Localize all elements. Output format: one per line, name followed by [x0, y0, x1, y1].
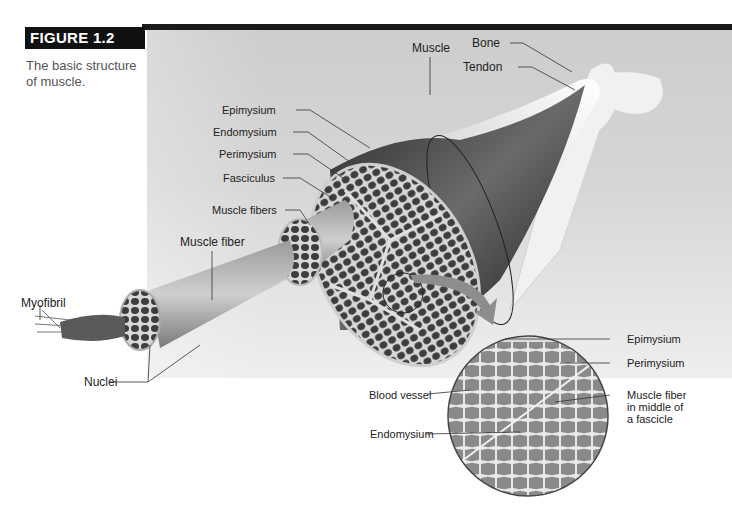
label-fasciculus: Fasciculus — [223, 172, 275, 185]
label-nuclei: Nuclei — [84, 376, 117, 389]
micro-label-muscle-fiber: Muscle fiber in middle of a fascicle — [627, 389, 686, 425]
myofibril-shape — [60, 315, 125, 341]
label-epimysium: Epimysium — [222, 104, 276, 117]
micro-label-blood-vessel: Blood vessel — [369, 389, 431, 402]
micrograph — [440, 330, 620, 500]
label-muscle-fiber: Muscle fiber — [180, 236, 245, 249]
muscle-illustration — [0, 0, 732, 505]
muscle-fiber-body — [150, 240, 294, 348]
micro-label-endomysium: Endomysium — [370, 428, 434, 441]
micro-label-epimysium: Epimysium — [627, 333, 681, 346]
micro-label-line-3: a fascicle — [627, 413, 686, 425]
label-myofibril: Myofibril — [21, 297, 66, 310]
label-endomysium: Endomysium — [213, 126, 277, 139]
micro-label-line-1: Muscle fiber — [627, 389, 686, 401]
label-tendon: Tendon — [463, 61, 502, 74]
micro-label-line-2: in middle of — [627, 401, 686, 413]
label-perimysium: Perimysium — [219, 148, 276, 161]
micro-label-perimysium: Perimysium — [627, 357, 684, 370]
label-muscle-fibers: Muscle fibers — [212, 204, 277, 217]
fiber-cross-section — [120, 290, 160, 350]
label-muscle: Muscle — [412, 42, 450, 55]
label-bone: Bone — [472, 37, 500, 50]
